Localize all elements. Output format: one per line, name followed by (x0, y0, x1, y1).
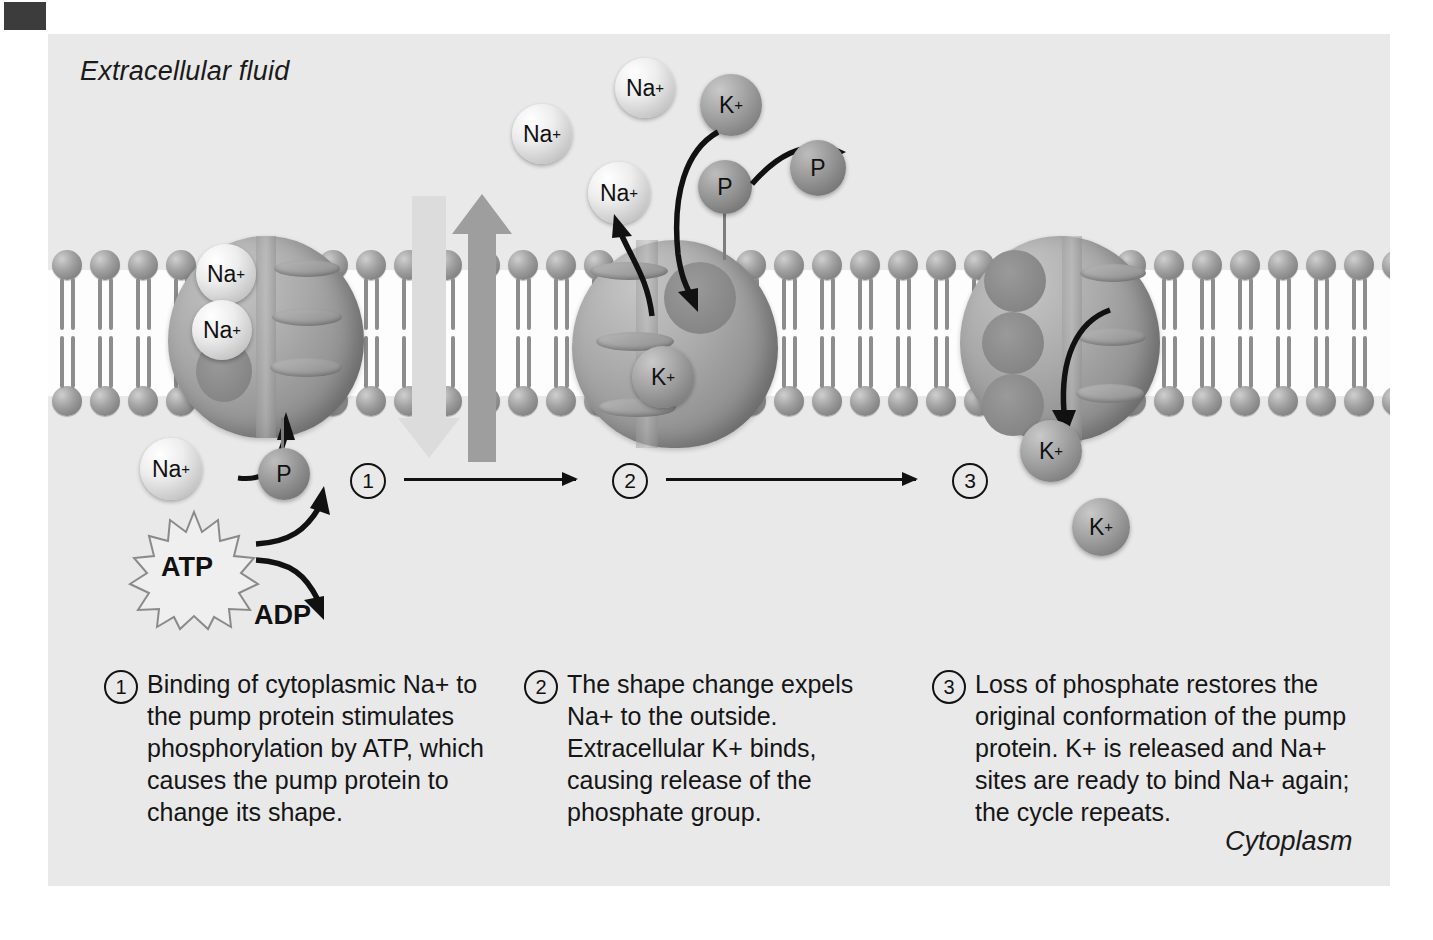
phospholipid-head-lower (1344, 386, 1374, 416)
phospholipid-head-upper (888, 250, 918, 280)
phospholipid-head-upper (1306, 250, 1336, 280)
phospholipid-head-upper (1344, 250, 1374, 280)
phospholipid-head-upper (1230, 250, 1260, 280)
potassium-ion-releasing: K+ (1020, 420, 1082, 482)
phosphate-label: P (810, 155, 825, 182)
phospholipid-tail-upper (869, 278, 873, 330)
phospholipid-tail-lower (1325, 336, 1329, 388)
atp-to-adp-arrow (250, 556, 380, 666)
step-connector-2-to-3 (666, 478, 916, 481)
scan-artifact-mark (4, 2, 46, 30)
phosphate-label: P (717, 174, 732, 201)
phospholipid-tail-lower (98, 336, 102, 388)
phospholipid-tail-upper (375, 278, 379, 330)
phosphate-attached-pump-2: P (698, 160, 752, 214)
phospholipid-tail-upper (109, 278, 113, 330)
phospholipid-tail-upper (1249, 278, 1253, 330)
caption-step-3: 3 Loss of phosphate restores the origina… (932, 668, 1362, 828)
phospholipid-tail-upper (1352, 278, 1356, 330)
pump-3-site-a (984, 250, 1046, 312)
phospholipid-head-upper (90, 250, 120, 280)
phospholipid-tail-lower (945, 336, 949, 388)
phospholipid-tail-lower (364, 336, 368, 388)
ion-label: K (1039, 438, 1054, 465)
phospholipid-tail-lower (60, 336, 64, 388)
phospholipid-tail-upper (1276, 278, 1280, 330)
phospholipid-tail-lower (858, 336, 862, 388)
phospholipid-tail-upper (907, 278, 911, 330)
phospholipid-tail-upper (60, 278, 64, 330)
phospholipid-head-upper (1192, 250, 1222, 280)
phospholipid-tail-lower (831, 336, 835, 388)
phospholipid-head-upper (128, 250, 158, 280)
phospholipid-tail-upper (934, 278, 938, 330)
phospholipid-tail-lower (147, 336, 151, 388)
phospholipid-head-upper (1268, 250, 1298, 280)
pump-1-helix-c (270, 358, 342, 377)
phospholipid-tail-upper (98, 278, 102, 330)
phospholipid-tail-upper (1363, 278, 1367, 330)
phospholipid-tail-upper (858, 278, 862, 330)
caption-step-2: 2 The shape change expels Na+ to the out… (524, 668, 904, 828)
phospholipid-tail-upper (945, 278, 949, 330)
phospholipid-tail-lower (869, 336, 873, 388)
phospholipid-tail-lower (375, 336, 379, 388)
phospholipid-tail-lower (820, 336, 824, 388)
cytoplasm-label: Cytoplasm (1225, 826, 1353, 857)
phospholipid-tail-lower (1173, 336, 1177, 388)
phospholipid-head-lower (52, 386, 82, 416)
phospholipid-tail-upper (782, 278, 786, 330)
phospholipid-tail-upper (820, 278, 824, 330)
phospholipid-head-lower (774, 386, 804, 416)
caption-text-3: Loss of phosphate restores the original … (975, 668, 1362, 828)
phospholipid-tail-lower (934, 336, 938, 388)
step-marker-3: 3 (952, 463, 988, 499)
phospholipid-tail-lower (109, 336, 113, 388)
phospholipid-tail-lower (907, 336, 911, 388)
sodium-ion-expelled-2: Na+ (512, 104, 572, 164)
phospholipid-tail-lower (136, 336, 140, 388)
step-connector-1-to-2 (404, 478, 576, 481)
phospholipid-tail-upper (565, 278, 569, 330)
phospholipid-tail-upper (1314, 278, 1318, 330)
phospholipid-tail-upper (793, 278, 797, 330)
phospholipid-tail-upper (1173, 278, 1177, 330)
phospholipid-head-lower (90, 386, 120, 416)
phospholipid-tail-lower (1162, 336, 1166, 388)
phospholipid-head-lower (812, 386, 842, 416)
phospholipid-tail-lower (1287, 336, 1291, 388)
phospholipid-tail-lower (1249, 336, 1253, 388)
ion-label: K (1089, 514, 1104, 541)
caption-number-1: 1 (104, 670, 138, 704)
extracellular-fluid-label: Extracellular fluid (80, 56, 289, 87)
phosphate-label: P (276, 461, 291, 488)
phospholipid-tail-upper (896, 278, 900, 330)
caption-text-2: The shape change expels Na+ to the outsi… (567, 668, 904, 828)
phospholipid-tail-lower (565, 336, 569, 388)
phospholipid-tail-upper (136, 278, 140, 330)
phospholipid-tail-lower (1200, 336, 1204, 388)
phospholipid-tail-upper (1325, 278, 1329, 330)
phospholipid-tail-upper (831, 278, 835, 330)
phospholipid-head-lower (1192, 386, 1222, 416)
phospholipid-head-upper (52, 250, 82, 280)
pump-2-phosphate-stalk (723, 212, 726, 260)
phospholipid-tail-lower (1276, 336, 1280, 388)
phosphate-released-free: P (790, 140, 846, 196)
figure-canvas: Extracellular fluid Na+ Na+ Na+ P ATP AD… (0, 0, 1433, 940)
transport-arrows-group (400, 186, 530, 476)
sodium-ion-bound-1: Na+ (196, 244, 256, 304)
phospholipid-tail-lower (1352, 336, 1356, 388)
phospholipid-head-lower (850, 386, 880, 416)
phospholipid-head-lower (1268, 386, 1298, 416)
step-marker-1: 1 (350, 463, 386, 499)
ion-label: Na (203, 317, 232, 344)
phospholipid-tail-upper (1162, 278, 1166, 330)
caption-step-1: 1 Binding of cytoplasmic Na+ to the pump… (104, 668, 494, 828)
phospholipid-tail-upper (554, 278, 558, 330)
phospholipid-head-upper (812, 250, 842, 280)
phospholipid-tail-lower (1314, 336, 1318, 388)
phospholipid-head-lower (1306, 386, 1336, 416)
step-marker-2: 2 (612, 463, 648, 499)
sodium-efflux-arrow (452, 194, 512, 462)
